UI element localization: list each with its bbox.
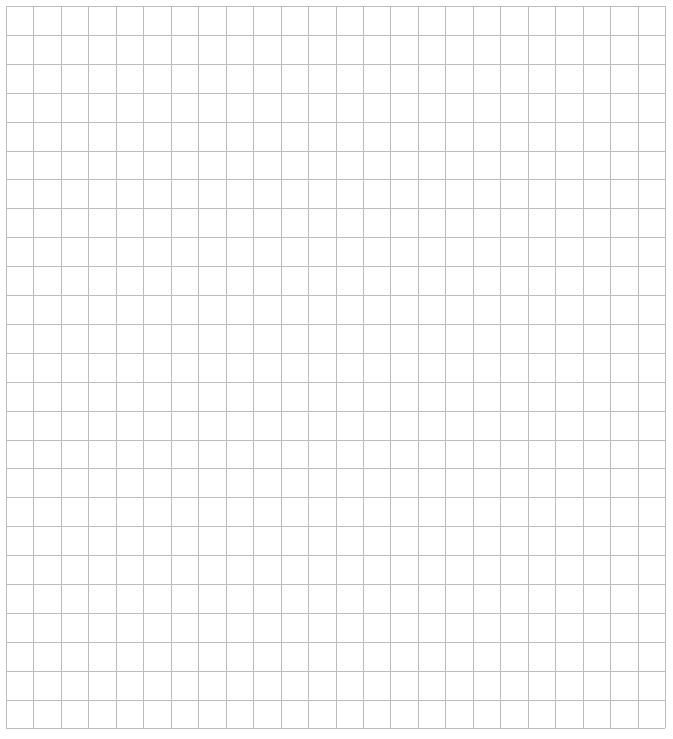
grid-paper-page <box>0 0 673 739</box>
graph-paper-grid <box>0 0 673 739</box>
